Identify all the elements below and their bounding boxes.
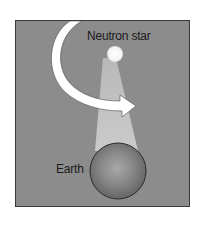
earth-icon [90, 143, 146, 199]
neutron-star-label: Neutron star [87, 29, 151, 43]
earth-label: Earth [56, 162, 84, 176]
diagram-frame: Neutron star Earth [15, 20, 190, 207]
diagram-canvas [16, 21, 190, 207]
neutron-star-icon [107, 46, 123, 62]
